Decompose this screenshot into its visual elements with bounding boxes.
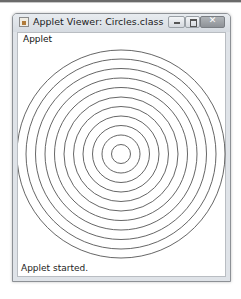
window-title: Applet Viewer: Circles.class — [33, 16, 163, 27]
circle-ring — [83, 116, 159, 192]
close-button[interactable]: ✕ — [200, 16, 225, 28]
maximize-icon — [190, 19, 197, 27]
applet-client-area: Applet Applet started. — [17, 32, 226, 277]
circle-ring — [18, 50, 225, 258]
status-bar-text: Applet started. — [21, 263, 88, 273]
circle-ring — [74, 107, 169, 202]
circle-ring — [112, 145, 131, 164]
java-app-icon[interactable] — [19, 17, 29, 27]
circles-drawing — [18, 33, 227, 278]
circle-ring — [102, 135, 140, 173]
minimize-icon — [174, 22, 180, 24]
close-icon: ✕ — [201, 15, 224, 25]
applet-viewer-window: Applet Viewer: Circles.class ✕ Applet Ap… — [12, 13, 231, 282]
circle-ring — [45, 78, 197, 230]
circle-ring — [93, 126, 150, 183]
minimize-button[interactable] — [168, 16, 185, 28]
circle-ring — [36, 69, 207, 240]
circle-ring — [64, 97, 178, 211]
page-top-rule-shadow — [0, 2, 241, 3]
title-bar[interactable]: Applet Viewer: Circles.class ✕ — [13, 14, 230, 32]
circle-ring — [55, 88, 188, 221]
maximize-button[interactable] — [185, 16, 200, 28]
